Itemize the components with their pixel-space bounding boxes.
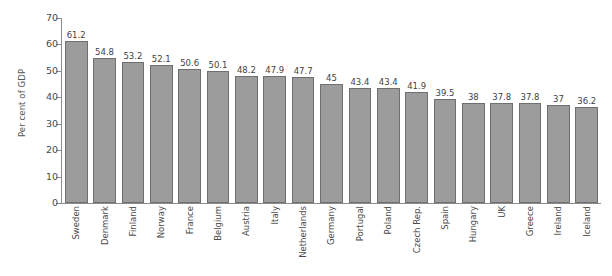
x-category-label: Norway [157,206,166,238]
bar-slot: 43.4 [349,18,372,203]
bar-value-label: 47.9 [265,65,284,75]
x-category-slot: Belgium [204,206,232,276]
y-tick-label: 70 [46,12,58,23]
x-category-slot: Hungary [459,206,487,276]
bar-slot: 37.8 [519,18,542,203]
x-category-slot: Italy [261,206,289,276]
y-axis-title-text: Per cent of GDP [17,68,27,136]
y-tick-label: 20 [46,144,58,155]
bar-value-label: 50.1 [209,60,228,70]
bar[interactable] [207,71,230,203]
y-tick-label: 10 [46,171,58,182]
x-category-label: Ireland [554,206,563,235]
bar-slot: 48.2 [235,18,258,203]
bar-value-label: 47.7 [294,66,313,76]
bar-value-label: 37.8 [492,92,511,102]
plot-area: 010203040506070 61.254.853.252.150.650.1… [61,18,601,203]
bar[interactable] [320,84,343,203]
bar-value-label: 37.8 [521,92,540,102]
bar-value-label: 53.2 [123,51,142,61]
x-category-label: France [185,206,194,234]
bar-slot: 50.1 [207,18,230,203]
x-category-label: Greece [526,206,535,236]
x-category-label: Poland [384,206,393,234]
bar-slot: 52.1 [150,18,173,203]
bar-value-label: 50.6 [180,58,199,68]
x-axis-category-labels: SwedenDenmarkFinlandNorwayFranceBelgiumA… [62,206,601,276]
x-category-slot: UK [488,206,516,276]
bar[interactable] [349,88,372,203]
x-category-slot: Sweden [62,206,90,276]
bar[interactable] [547,105,570,203]
x-category-label: Italy [270,206,279,224]
x-category-slot: Norway [147,206,175,276]
y-tick-label: 40 [46,91,58,102]
x-category-slot: Germany [317,206,345,276]
bar-slot: 50.6 [178,18,201,203]
bar[interactable] [575,107,598,203]
x-category-label: Denmark [100,206,109,245]
bar[interactable] [235,76,258,203]
bar-value-label: 39.5 [436,88,455,98]
x-axis-line [61,203,601,204]
bar[interactable] [490,103,513,203]
x-category-slot: Czech Rep. [402,206,430,276]
bar-value-label: 43.4 [379,77,398,87]
bar-slot: 43.4 [377,18,400,203]
bar-value-label: 43.4 [350,77,369,87]
bar-slot: 37.8 [490,18,513,203]
bar[interactable] [519,103,542,203]
bar[interactable] [292,77,315,203]
x-category-label: Iceland [582,206,591,237]
x-category-label: Netherlands [299,206,308,258]
bar-value-label: 48.2 [237,65,256,75]
bar[interactable] [377,88,400,203]
bar[interactable] [150,65,173,203]
bar-slot: 47.9 [263,18,286,203]
y-tick-label: 60 [46,38,58,49]
x-category-label: Spain [440,206,449,230]
x-category-label: Hungary [469,206,478,242]
bar-slot: 61.2 [65,18,88,203]
bar[interactable] [263,76,286,203]
x-category-slot: Finland [119,206,147,276]
bar-slot: 41.9 [405,18,428,203]
y-tick-label: 0 [52,197,58,208]
bar-slot: 38 [462,18,485,203]
y-axis-title: Per cent of GDP [12,0,32,205]
x-category-slot: Ireland [544,206,572,276]
x-category-slot: Poland [374,206,402,276]
x-category-label: Germany [327,206,336,245]
bar-value-label: 61.2 [67,30,86,40]
bar-series: 61.254.853.252.150.650.148.247.947.74543… [62,18,601,203]
x-category-slot: Iceland [573,206,601,276]
bar-value-label: 54.8 [95,47,114,57]
bar[interactable] [122,62,145,203]
bar-slot: 53.2 [122,18,145,203]
bar-slot: 36.2 [575,18,598,203]
x-category-label: Belgium [214,206,223,241]
bar[interactable] [65,41,88,203]
x-category-slot: Portugal [346,206,374,276]
x-category-slot: Austria [232,206,260,276]
x-category-label: Finland [128,206,137,236]
bar-value-label: 52.1 [152,54,171,64]
bar-slot: 47.7 [292,18,315,203]
bar[interactable] [178,69,201,203]
bar-value-label: 37 [553,94,564,104]
x-category-slot: Netherlands [289,206,317,276]
x-category-label: Portugal [355,206,364,241]
bar[interactable] [462,103,485,203]
bar-value-label: 41.9 [407,81,426,91]
bar[interactable] [405,92,428,203]
bar-slot: 54.8 [93,18,116,203]
x-category-slot: Denmark [90,206,118,276]
y-tick-label: 50 [46,65,58,76]
bar-slot: 39.5 [434,18,457,203]
x-category-label: Austria [242,206,251,236]
x-category-label: Czech Rep. [412,206,421,253]
bar[interactable] [93,58,116,203]
x-category-slot: Greece [516,206,544,276]
y-tick-label: 30 [46,118,58,129]
bar[interactable] [434,99,457,203]
